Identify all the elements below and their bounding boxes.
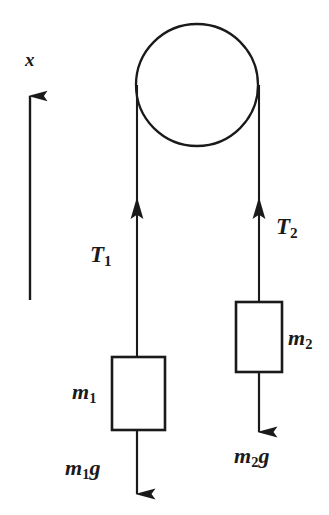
block-m1 bbox=[112, 357, 165, 430]
weight-m2g-label: m2g bbox=[234, 445, 269, 470]
x-axis-label: x bbox=[25, 50, 35, 69]
weight-m1g-gravity-symbol: g bbox=[89, 455, 100, 480]
physics-diagram: x T1 T2 m1 m2 m1g m2g bbox=[0, 0, 329, 515]
tension-1-label: T1 bbox=[90, 243, 112, 268]
weight-m2g-gravity-symbol: g bbox=[258, 443, 269, 468]
pulley-wheel bbox=[136, 24, 258, 146]
block-m1-label: m1 bbox=[72, 381, 96, 406]
block-m1-subscript: 1 bbox=[89, 390, 96, 406]
weight-m1g-label: m1g bbox=[65, 457, 100, 482]
tension-2-subscript: 2 bbox=[290, 224, 298, 241]
block-m2-subscript: 2 bbox=[305, 336, 312, 352]
tension-1-subscript: 1 bbox=[104, 252, 112, 269]
diagram-canvas bbox=[0, 0, 329, 515]
block-m2-label: m2 bbox=[288, 327, 312, 352]
block-m2 bbox=[236, 302, 282, 372]
tension-2-label: T2 bbox=[276, 215, 298, 240]
